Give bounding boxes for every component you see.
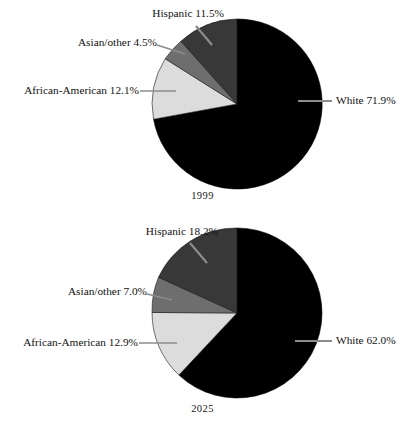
pie-chart-2025: White 62.0% African-American 12.9% Asian… [0,213,405,426]
pie-label-african-american-2025: African-American 12.9% [23,336,138,348]
pie-1999-graphic [0,0,405,213]
pie-caption-1999: 1999 [0,190,405,201]
pie-2025-graphic [0,213,405,426]
pie-chart-1999: White 71.9% African-American 12.1% Asian… [0,0,405,213]
pie-caption-2025: 2025 [0,403,405,414]
pie-chart-figure: White 71.9% African-American 12.1% Asian… [0,0,405,426]
pie-label-white-1999: White 71.9% [336,94,396,106]
pie-label-white-2025: White 62.0% [336,334,396,346]
pie-label-african-american-1999: African-American 12.1% [24,84,139,96]
pie-label-hispanic-2025: Hispanic 18.2% [146,225,218,237]
pie-label-asian-other-1999: Asian/other 4.5% [78,36,157,48]
pie-label-asian-other-2025: Asian/other 7.0% [68,285,147,297]
pie-label-hispanic-1999: Hispanic 11.5% [152,7,224,19]
